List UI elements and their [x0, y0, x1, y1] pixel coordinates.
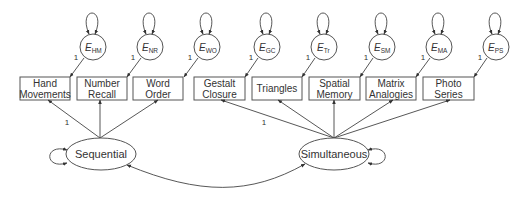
- svg-text:Analogies: Analogies: [369, 89, 413, 100]
- error-ma: EMA: [426, 34, 452, 60]
- latent-simultaneous: Simultaneous: [299, 138, 369, 170]
- svg-text:Simultaneous: Simultaneous: [301, 148, 368, 160]
- error-ps: EPS: [483, 34, 509, 60]
- indicator-gestalt-closure: Gestalt Closure: [194, 77, 245, 100]
- error-terms: EHM ENR EWO EGC ETr ESM EMA EPS: [80, 34, 509, 60]
- svg-text:1: 1: [74, 53, 79, 62]
- svg-text:1: 1: [306, 53, 311, 62]
- svg-text:1: 1: [65, 118, 70, 127]
- svg-text:Number: Number: [84, 78, 120, 89]
- error-hm: EHM: [80, 34, 106, 60]
- error-gc: EGC: [254, 34, 280, 60]
- svg-text:Photo: Photo: [435, 78, 462, 89]
- simultaneous-variance-loop: [368, 149, 385, 164]
- svg-text:Memory: Memory: [316, 89, 352, 100]
- indicator-hand-movements: Hand Movements: [19, 77, 71, 100]
- sem-diagram: 1 1 1 1 1 1 1 1 EHM ENR EWO EGC ETr ESM …: [0, 0, 529, 197]
- svg-text:Movements: Movements: [19, 89, 71, 100]
- sequential-loadings: 1: [48, 100, 158, 138]
- svg-text:Spatial: Spatial: [319, 78, 350, 89]
- svg-text:Closure: Closure: [202, 89, 237, 100]
- indicator-triangles: Triangles: [252, 77, 302, 100]
- svg-text:1: 1: [131, 53, 136, 62]
- svg-text:Matrix: Matrix: [377, 78, 404, 89]
- svg-text:Hand: Hand: [33, 78, 57, 89]
- svg-text:1: 1: [421, 53, 426, 62]
- svg-text:1: 1: [478, 53, 483, 62]
- error-sm: ESM: [369, 34, 395, 60]
- indicator-word-order: Word Order: [133, 77, 183, 100]
- svg-text:1: 1: [262, 118, 267, 127]
- svg-text:Series: Series: [434, 89, 462, 100]
- svg-text:1: 1: [364, 53, 369, 62]
- svg-text:Triangles: Triangles: [257, 83, 298, 94]
- indicator-photo-series: Photo Series: [423, 77, 474, 100]
- simultaneous-loadings: 1: [221, 100, 450, 138]
- indicator-number-recall: Number Recall: [77, 77, 127, 100]
- indicator-matrix-analogies: Matrix Analogies: [366, 77, 416, 100]
- indicator-boxes: Hand Movements Number Recall Word Order …: [19, 77, 474, 100]
- svg-text:Recall: Recall: [88, 89, 116, 100]
- error-nr: ENR: [137, 34, 163, 60]
- svg-text:Sequential: Sequential: [75, 148, 127, 160]
- factor-covariance-curve: [127, 164, 305, 187]
- error-wo: EWO: [194, 34, 220, 60]
- svg-text:Gestalt: Gestalt: [204, 78, 236, 89]
- svg-text:1: 1: [249, 53, 254, 62]
- svg-text:1: 1: [188, 53, 193, 62]
- sequential-variance-loop: [50, 149, 67, 164]
- svg-text:Order: Order: [145, 89, 171, 100]
- indicator-spatial-memory: Spatial Memory: [309, 77, 360, 100]
- error-variance-loops: [86, 13, 501, 34]
- latent-sequential: Sequential: [66, 138, 136, 170]
- svg-text:Word: Word: [146, 78, 170, 89]
- error-tr: ETr: [311, 34, 337, 60]
